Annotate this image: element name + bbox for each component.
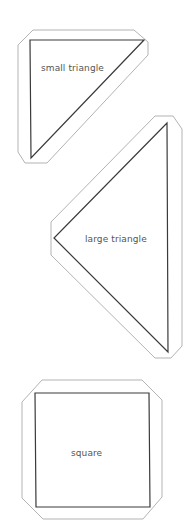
square-label: square [71, 448, 102, 458]
small-triangle-shape [30, 40, 144, 158]
small-triangle-label: small triangle [41, 63, 104, 73]
large-triangle-label: large triangle [85, 234, 147, 244]
